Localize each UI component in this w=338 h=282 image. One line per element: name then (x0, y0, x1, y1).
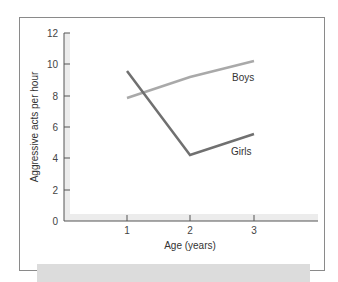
y-tick-10: 10 (47, 59, 59, 70)
boys-label: Boys (232, 72, 254, 83)
girls-label: Girls (231, 146, 252, 157)
y-tick-4: 4 (52, 153, 58, 164)
girls-line (127, 71, 254, 155)
x-tick-1: 1 (124, 225, 130, 236)
y-tick-2: 2 (52, 185, 58, 196)
line-chart: 12 10 8 6 4 2 0 1 2 3 Age (years) Aggres… (0, 0, 338, 282)
x-axis-title: Age (years) (164, 240, 216, 251)
y-tick-8: 8 (52, 91, 58, 102)
y-axis-title: Aggressive acts per hour (29, 71, 40, 182)
x-tick-2: 2 (187, 225, 193, 236)
y-tick-6: 6 (52, 122, 58, 133)
y-tick-labels: 12 10 8 6 4 2 0 (47, 28, 59, 227)
y-tick-12: 12 (47, 28, 59, 39)
x-axis-strip (64, 214, 318, 221)
x-tick-3: 3 (251, 225, 257, 236)
y-tick-0: 0 (52, 216, 58, 227)
x-tick-labels: 1 2 3 (124, 225, 257, 236)
